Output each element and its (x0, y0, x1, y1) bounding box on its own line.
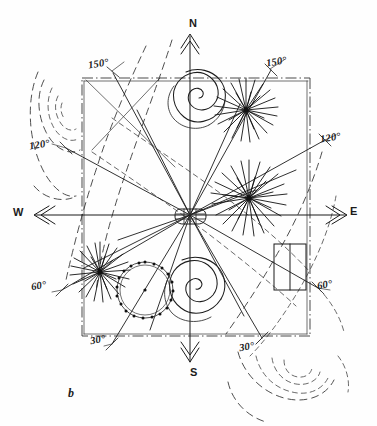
sketch-drawing: .ln{fill:none;stroke:#1b1b1b;stroke-widt… (0, 0, 377, 426)
radial-rays-group (62, 70, 325, 344)
spiral-symbol-bottom (165, 257, 225, 321)
label-leader-lines (52, 60, 336, 346)
figure-caption: b (68, 386, 74, 401)
compass-label-north: N (189, 17, 197, 29)
figure-panel: .ln{fill:none;stroke:#1b1b1b;stroke-widt… (0, 0, 377, 426)
starburst-symbol-center-right (211, 160, 287, 236)
starburst-symbol-lower-left (70, 242, 130, 302)
survey-boundary-rectangle (82, 78, 310, 336)
beaded-circle-symbol (116, 261, 175, 320)
compass-label-east: E (350, 205, 357, 217)
compass-label-west: W (13, 206, 23, 218)
compass-label-south: S (190, 366, 197, 378)
contour-lines-group (30, 40, 348, 422)
spiral-symbol-top (168, 70, 225, 129)
